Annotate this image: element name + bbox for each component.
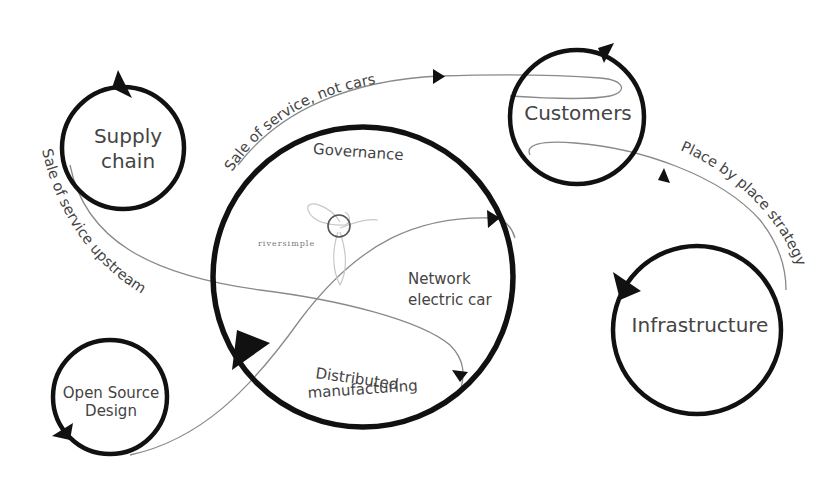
flow-label-place-by-place: Place by place strategy	[679, 138, 810, 268]
node-infrastructure: Infrastructure	[613, 246, 781, 414]
arrow-upstream	[452, 370, 468, 382]
node-open-source-design: Open Source Design	[52, 340, 167, 454]
network-label-line2: electric car	[408, 291, 493, 309]
supply-chain-label-line1: Supply	[94, 124, 162, 148]
arrow-infrastructure	[613, 272, 641, 300]
network-label-line1: Network	[408, 270, 471, 288]
logo-text: riversimple	[258, 239, 315, 248]
arrow-place-by-place	[658, 168, 670, 183]
infrastructure-label: Infrastructure	[632, 313, 769, 337]
riversimple-logo: riversimple	[258, 204, 378, 285]
customers-label: Customers	[524, 101, 632, 125]
governance-label: Governance	[313, 140, 405, 164]
supply-chain-label-line2: chain	[101, 149, 155, 173]
node-customers: Customers	[510, 43, 644, 184]
business-model-diagram: Supply chain Customers Infrastructure Op…	[0, 0, 838, 482]
arrow-supply-chain	[112, 70, 132, 98]
open-source-label-line1: Open Source	[63, 384, 159, 402]
flow-line-place-by-place	[529, 142, 786, 290]
arrow-sale-not-cars	[433, 69, 445, 84]
arrow-main	[232, 330, 270, 370]
node-network-electric-car: Governance Network electric car Distribu…	[213, 127, 513, 427]
node-supply-chain: Supply chain	[62, 70, 184, 209]
open-source-label-line2: Design	[85, 402, 137, 420]
